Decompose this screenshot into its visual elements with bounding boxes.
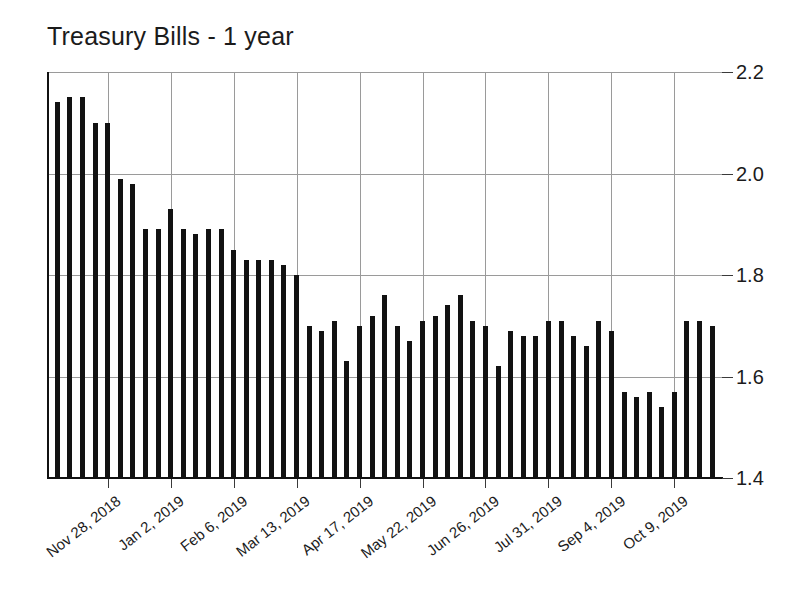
bar	[231, 250, 236, 478]
bar	[344, 361, 349, 478]
x-tick-mark	[297, 479, 298, 488]
bar	[181, 229, 186, 478]
bar	[206, 229, 211, 478]
bar	[193, 234, 198, 478]
bar	[244, 260, 249, 478]
bar	[710, 326, 715, 478]
bar	[672, 392, 677, 478]
bar	[219, 229, 224, 478]
bar	[269, 260, 274, 478]
y-tick-mark	[722, 478, 733, 479]
x-tick-mark	[108, 479, 109, 488]
bar	[67, 97, 72, 478]
bar	[93, 123, 98, 478]
bar	[634, 397, 639, 478]
x-tick-mark	[423, 479, 424, 488]
y-axis-line	[47, 72, 49, 479]
bar	[697, 321, 702, 478]
bar	[496, 366, 501, 478]
bar	[546, 321, 551, 478]
x-tick-mark	[171, 479, 172, 488]
bar	[445, 305, 450, 478]
bar	[470, 321, 475, 478]
x-tick-label: Sep 4, 2019	[554, 492, 628, 555]
bar	[370, 316, 375, 478]
x-tick-label: Oct 9, 2019	[619, 492, 691, 553]
bar	[382, 295, 387, 478]
bar	[156, 229, 161, 478]
bar	[483, 326, 488, 478]
gridline-y-1.8	[47, 275, 722, 276]
bar	[105, 123, 110, 478]
y-tick-label: 2.2	[736, 61, 764, 84]
treasury-bills-bar-chart: Treasury Bills - 1 year 1.41.61.82.02.2 …	[0, 0, 799, 605]
x-tick-mark	[360, 479, 361, 488]
gridline-y-2.2	[47, 72, 722, 73]
bar	[521, 336, 526, 478]
bar	[168, 209, 173, 478]
bar	[684, 321, 689, 478]
bar	[256, 260, 261, 478]
bar	[357, 326, 362, 478]
y-tick-label: 2.0	[736, 162, 764, 185]
bar	[596, 321, 601, 478]
bar	[508, 331, 513, 478]
bar	[559, 321, 564, 478]
bar	[584, 346, 589, 478]
bar	[609, 331, 614, 478]
bar	[307, 326, 312, 478]
bar	[395, 326, 400, 478]
bar	[55, 102, 60, 478]
plot-area	[47, 72, 722, 478]
bar	[80, 97, 85, 478]
y-tick-label: 1.8	[736, 264, 764, 287]
bar	[659, 407, 664, 478]
bar	[622, 392, 627, 478]
x-tick-label: Jan 2, 2019	[115, 492, 187, 554]
bar	[332, 321, 337, 478]
bar	[647, 392, 652, 478]
y-tick-mark	[722, 174, 733, 175]
bar	[294, 275, 299, 478]
y-tick-mark	[722, 72, 733, 73]
chart-title: Treasury Bills - 1 year	[47, 22, 294, 51]
y-tick-mark	[722, 377, 733, 378]
x-tick-label: Nov 28, 2018	[43, 492, 124, 560]
x-tick-label: Jul 31, 2019	[490, 492, 565, 556]
bar	[458, 295, 463, 478]
x-tick-mark	[674, 479, 675, 488]
bar	[319, 331, 324, 478]
y-tick-label: 1.4	[736, 467, 764, 490]
bar	[433, 316, 438, 478]
bar	[420, 321, 425, 478]
y-tick-label: 1.6	[736, 365, 764, 388]
bar	[130, 184, 135, 478]
x-tick-mark	[485, 479, 486, 488]
x-axis-line	[47, 477, 723, 479]
y-tick-mark	[722, 275, 733, 276]
x-tick-mark	[548, 479, 549, 488]
x-tick-mark	[234, 479, 235, 488]
bar	[143, 229, 148, 478]
bar	[571, 336, 576, 478]
bar	[281, 265, 286, 478]
x-tick-mark	[611, 479, 612, 488]
gridline-y-2	[47, 174, 722, 175]
bar	[407, 341, 412, 478]
bar	[118, 179, 123, 478]
bar	[533, 336, 538, 478]
